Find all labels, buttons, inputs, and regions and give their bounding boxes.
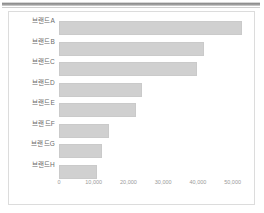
bar-track: 브랜드G	[59, 141, 250, 161]
top-divider-rule-secondary	[2, 7, 260, 8]
bar-브랜드H	[59, 165, 97, 179]
bar-브랜드E	[59, 103, 136, 117]
category-label: 브랜드D	[11, 80, 59, 87]
bar-브랜드G	[59, 144, 102, 158]
x-axis-tick-label: 20,000	[120, 180, 137, 186]
x-axis-tick-label: 40,000	[189, 180, 206, 186]
x-axis-tick-label: 0	[57, 180, 60, 186]
bar-track: 브랜드B	[59, 39, 250, 59]
bar-브랜드A	[59, 21, 242, 35]
x-axis-tick-label: 50,000	[224, 180, 241, 186]
bar-브랜드C	[59, 62, 197, 76]
category-label: 브랜드G	[11, 141, 59, 148]
bar-row: 브랜드E	[9, 100, 254, 120]
bar-row: 브랜드B	[9, 39, 254, 59]
screenshot-root: 브랜드A브랜드B브랜드C브랜드D브랜드E브랜드F브랜드G브랜드H 010,000…	[0, 0, 264, 213]
x-axis-tick-label: 10,000	[85, 180, 102, 186]
category-label: 브랜드F	[11, 121, 59, 128]
bar-track: 브랜드F	[59, 121, 250, 141]
bar-row: 브랜드G	[9, 141, 254, 161]
x-axis: 010,00020,00030,00040,00050,000	[59, 180, 250, 192]
category-label: 브랜드E	[11, 100, 59, 107]
category-label: 브랜드B	[11, 39, 59, 46]
bar-row: 브랜드D	[9, 80, 254, 100]
bar-브랜드D	[59, 83, 142, 97]
bar-브랜드F	[59, 124, 109, 138]
bar-track: 브랜드D	[59, 80, 250, 100]
bar-track: 브랜드A	[59, 18, 250, 38]
category-label: 브랜드C	[11, 59, 59, 66]
bar-row: 브랜드C	[9, 59, 254, 79]
bar-row: 브랜드A	[9, 18, 254, 38]
category-label: 브랜드H	[11, 162, 59, 169]
bar-row: 브랜드F	[9, 121, 254, 141]
top-divider-rule	[2, 2, 260, 6]
bar-track: 브랜드C	[59, 59, 250, 79]
x-axis-tick-label: 30,000	[155, 180, 172, 186]
bar-브랜드B	[59, 42, 204, 56]
bar-track: 브랜드E	[59, 100, 250, 120]
bar-chart-plot-area: 브랜드A브랜드B브랜드C브랜드D브랜드E브랜드F브랜드G브랜드H	[9, 12, 254, 204]
category-label: 브랜드A	[11, 18, 59, 25]
chart-panel: 브랜드A브랜드B브랜드C브랜드D브랜드E브랜드F브랜드G브랜드H 010,000…	[8, 11, 255, 205]
